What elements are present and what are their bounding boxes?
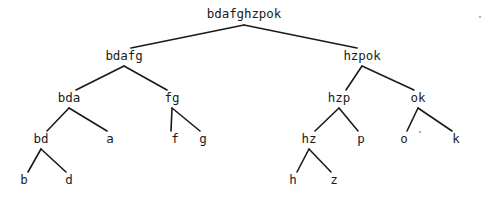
tree-diagram-canvas: bdafghzpokbdafghzpokbdafghzpokbdafghzpok…	[0, 0, 486, 199]
tree-node-hzp: hzp	[328, 91, 350, 105]
tree-node-h: h	[289, 173, 296, 187]
scan-speck	[479, 16, 481, 18]
tree-node-layer: bdafghzpokbdafghzpokbdafghzpokbdafghzpok…	[0, 0, 486, 199]
tree-node-bda: bda	[58, 91, 80, 105]
tree-node-hz: hz	[302, 132, 317, 146]
tree-node-f: f	[171, 132, 178, 146]
tree-node-d: d	[65, 173, 72, 187]
tree-node-ok: ok	[411, 91, 426, 105]
tree-node-bd: bd	[34, 132, 49, 146]
tree-node-k: k	[452, 132, 459, 146]
tree-node-fg: fg	[165, 91, 180, 105]
tree-node-p: p	[357, 132, 364, 146]
tree-node-b: b	[20, 173, 27, 187]
tree-node-g: g	[199, 132, 206, 146]
tree-node-bdafg: bdafg	[105, 49, 142, 63]
tree-node-a: a	[106, 132, 113, 146]
tree-node-o: o	[400, 132, 407, 146]
tree-node-hzpok: hzpok	[343, 49, 380, 63]
scan-speck	[419, 131, 421, 133]
tree-node-z: z	[330, 173, 337, 187]
tree-node-bdafghzpok: bdafghzpok	[207, 7, 281, 21]
